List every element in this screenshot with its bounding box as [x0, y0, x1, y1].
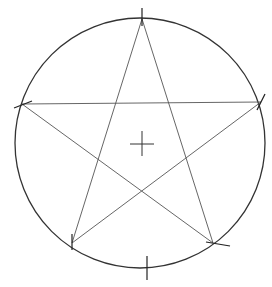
star-line-left-to-right	[22, 102, 261, 104]
star-line-top-to-bottom-right	[142, 19, 213, 243]
star-line-left-to-bottom-right	[22, 104, 213, 243]
bottom-right-tick	[206, 242, 230, 246]
center-mark	[130, 131, 154, 156]
left-tick	[14, 101, 32, 108]
outer-circle	[15, 18, 265, 268]
star-line-right-to-bottom-left	[72, 102, 261, 243]
pentagram-diagram	[0, 0, 272, 287]
star-line-top-to-bottom-left	[72, 19, 142, 243]
